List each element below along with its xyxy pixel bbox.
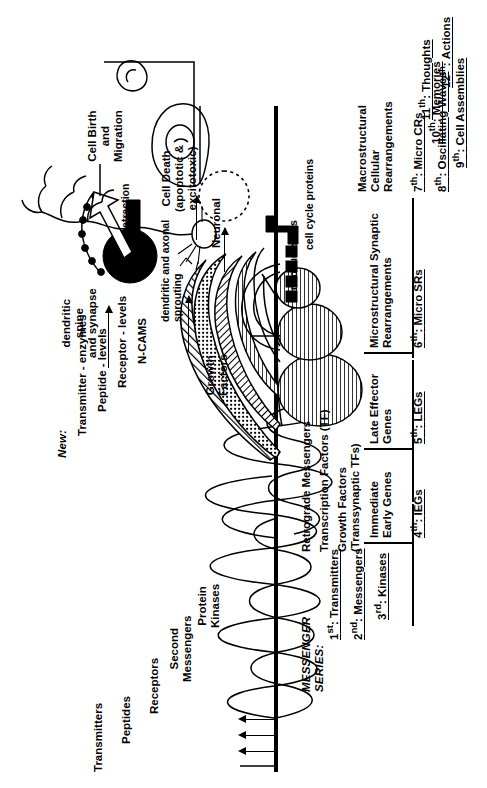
label-growth-factors-ts: Growth Factors (Transsynaptic TFs) bbox=[336, 443, 362, 552]
series-step-4-suffix: th bbox=[408, 523, 419, 532]
series-step-4: 4th: IEGs bbox=[396, 489, 425, 538]
series-step-3-label: Kinases bbox=[376, 553, 388, 597]
series-step-5-ordinal: 5 bbox=[412, 438, 424, 444]
label-immediate-early-genes: Immediate Early Genes bbox=[368, 472, 394, 538]
label-dendritic-spine-and-synapse: dendritic spine and synapse bbox=[60, 288, 99, 358]
label-protein-kinases: Protein Kinases bbox=[196, 584, 222, 628]
series-step-10-suffix: th bbox=[426, 122, 437, 131]
label-macrostructural-cellular-rearrangements: Macrostructural Cellular Rearrangements bbox=[356, 101, 395, 192]
series-step-6-ordinal: 6 bbox=[412, 342, 424, 348]
series-step-12-ordinal: 12 bbox=[440, 75, 452, 88]
label-transmitters: Transmitters bbox=[92, 703, 105, 772]
series-step-11-ordinal: 11 bbox=[420, 108, 432, 120]
label-endonucleases: endonucleases bbox=[288, 220, 300, 296]
new-item-n-cams: N-CAMS bbox=[136, 318, 149, 364]
series-step-3-suffix: rd bbox=[372, 604, 383, 614]
series-step-5: 5th: LEGs bbox=[396, 391, 425, 444]
series-step-9-ordinal: 9 bbox=[454, 162, 466, 168]
series-step-8-suffix: th bbox=[432, 177, 443, 186]
label-late-effector-genes: Late Effector Genes bbox=[368, 374, 394, 444]
input-arrow-2 bbox=[246, 735, 276, 736]
series-step-9-label: Cell Assemblies bbox=[454, 58, 466, 146]
series-step-12-label: Actions bbox=[440, 17, 452, 59]
label-growth-factors: Growth Factors bbox=[204, 354, 230, 396]
series-step-5-label: LEGs bbox=[412, 391, 424, 421]
series-step-8-ordinal: 8 bbox=[436, 186, 448, 192]
series-step-4-ordinal: 4 bbox=[412, 532, 424, 538]
label-cell-cycle-proteins: cell cycle proteins bbox=[304, 159, 316, 250]
spine-pointer bbox=[248, 296, 282, 336]
series-step-11-suffix: th bbox=[416, 99, 427, 108]
series-step-7-suffix: th bbox=[408, 177, 419, 186]
series-step-12-suffix: th bbox=[436, 66, 447, 75]
label-dendritic-and-axonal-sprouting: dendritic and axonal sprouting bbox=[160, 220, 184, 322]
series-step-5-suffix: th bbox=[408, 429, 419, 438]
diagram-canvas: Transmitters Peptides Receptors Second M… bbox=[0, 0, 487, 788]
series-step-3-ordinal: 3 bbox=[376, 614, 388, 620]
series-step-4-label: IEGs bbox=[412, 489, 424, 515]
series-step-6-suffix: th bbox=[408, 333, 419, 342]
arrow-to-sprouting bbox=[188, 296, 189, 352]
label-transcription-factors: Transcription Factors (TF) bbox=[318, 410, 331, 553]
legend-divider-sr bbox=[364, 352, 414, 354]
new-item-receptor-levels: Receptor - levels bbox=[116, 296, 129, 388]
input-arrow-1 bbox=[246, 751, 276, 752]
series-step-9-suffix: th bbox=[450, 153, 461, 162]
series-step-2-ordinal: 2 bbox=[352, 634, 364, 640]
rotated-figure-wrapper: Transmitters Peptides Receptors Second M… bbox=[0, 0, 487, 788]
series-step-3: 3rd: Kinases bbox=[360, 553, 389, 620]
series-step-10-ordinal: 10 bbox=[430, 131, 442, 144]
label-retrograde-messengers: Retrograde Messengers bbox=[300, 421, 313, 552]
label-neuronal: Neuronal bbox=[210, 198, 223, 248]
series-step-6-label: Micro SRs bbox=[412, 269, 424, 325]
label-peptides: Peptides bbox=[120, 696, 133, 744]
label-receptors: Receptors bbox=[148, 658, 161, 714]
label-retraction: retraction bbox=[120, 184, 132, 232]
label-cell-birth-and-migration: Cell Birth and Migration bbox=[86, 110, 125, 162]
series-step-6: 6th: Micro SRs bbox=[396, 269, 425, 348]
legend-divider-ieg bbox=[364, 542, 414, 544]
label-microstructural-synaptic-rearrangements: Microstructural Synaptic Rearrangements bbox=[368, 213, 394, 348]
legend-divider-leg bbox=[364, 448, 414, 450]
series-step-12: 12th: Actions bbox=[424, 17, 453, 88]
arrow-to-cell-death bbox=[224, 228, 225, 272]
series-step-2-suffix: nd bbox=[348, 622, 359, 634]
label-cell-death: Cell Death (apoptotic & excitotoxic) bbox=[160, 145, 199, 212]
new-block-heading: New: bbox=[56, 430, 69, 458]
label-second-messengers: Second Messengers bbox=[168, 616, 194, 682]
series-step-1-suffix: st bbox=[324, 625, 335, 634]
